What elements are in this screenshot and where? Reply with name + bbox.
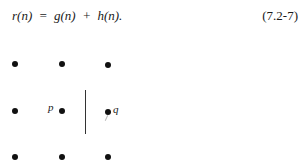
pixel-dot: [12, 154, 18, 160]
pixel-dot-q: [105, 109, 111, 115]
pixel-dot: [59, 154, 65, 160]
tick-mark: [105, 115, 108, 121]
label-p: p: [48, 101, 54, 113]
equation-number: (7.2-7): [262, 8, 298, 24]
pixel-dot-p: [59, 108, 65, 114]
pixel-dot: [59, 61, 65, 67]
pixel-dot: [105, 62, 111, 68]
pixel-dot: [12, 108, 18, 114]
equation: r(n) = g(n) + h(n).: [12, 8, 122, 24]
pixel-dot: [105, 154, 111, 160]
pixel-dot: [12, 61, 18, 67]
label-q: q: [113, 103, 119, 115]
boundary-line: [85, 90, 86, 134]
